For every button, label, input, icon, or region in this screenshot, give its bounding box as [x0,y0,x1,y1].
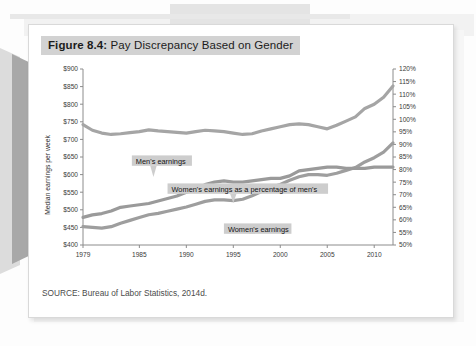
y2-axis-tick-label: 60% [399,216,412,223]
y2-axis-tick-label: 65% [399,204,412,211]
series-line-1 [83,86,393,135]
annotation-pointer [150,166,156,177]
x-axis-tick-label: 1979 [76,251,91,258]
y2-axis-tick-label: 90% [399,141,412,148]
figure-number: Figure 8.4: [48,39,107,51]
y-axis-tick-label: $600 [63,171,78,178]
y2-axis-tick-label: 50% [399,241,412,248]
x-axis-tick-label: 1995 [226,251,241,258]
x-axis-tick-label: 1990 [179,251,194,258]
y2-axis-tick-label: 80% [399,166,412,173]
y-axis-title: Median earnings per week [44,135,52,215]
y-axis-right: 50%55%60%65%70%75%80%85%90%95%100%105%11… [393,65,416,248]
y-axis-tick-label: $900 [63,65,78,72]
x-axis-tick-label: 2010 [367,251,382,258]
source-note: SOURCE: Bureau of Labor Statistics, 2014… [42,288,207,298]
y2-axis-tick-label: 120% [399,65,416,72]
background-rule-line [10,14,350,19]
line-chart: $400$450$500$550$600$650$700$750$800$850… [41,63,443,281]
y-axis-tick-label: $750 [63,118,78,125]
x-axis: 1979198519901995200020052010 [76,245,393,258]
x-axis-tick-label: 2005 [320,251,335,258]
y-axis-tick-label: $400 [63,241,78,248]
y-axis-tick-label: $850 [63,83,78,90]
series-annotation-label: Men's earnings [136,157,186,166]
y-axis-tick-label: $650 [63,153,78,160]
y2-axis-tick-label: 100% [399,116,416,123]
y2-axis-tick-label: 115% [399,78,416,85]
y2-axis-tick-label: 85% [399,153,412,160]
y-axis-tick-label: $800 [63,101,78,108]
y-axis-tick-label: $700 [63,136,78,143]
y2-axis-tick-label: 110% [399,91,416,98]
x-axis-tick-label: 2000 [273,251,288,258]
figure-title: Figure 8.4: Pay Discrepancy Based on Gen… [41,36,300,55]
figure-title-text: Pay Discrepancy Based on Gender [107,39,293,51]
y2-axis-tick-label: 95% [399,128,412,135]
figure-card: Figure 8.4: Pay Discrepancy Based on Gen… [28,24,454,318]
series-annotations-group: Men's earningsWomen's earnings as a perc… [132,155,328,233]
y2-axis-tick-label: 105% [399,103,416,110]
y2-axis-tick-label: 75% [399,179,412,186]
y-axis-tick-label: $500 [63,206,78,213]
x-axis-tick-label: 1985 [132,251,147,258]
y-axis-tick-label: $550 [63,189,78,196]
y-axis-tick-label: $450 [63,224,78,231]
y2-axis-tick-label: 70% [399,191,412,198]
y2-axis-tick-label: 55% [399,229,412,236]
series-annotation-label: Women's earnings [228,225,289,234]
series-annotation-label: Women's earnings as a percentage of men'… [172,185,318,194]
y-axis-left: $400$450$500$550$600$650$700$750$800$850… [63,65,83,248]
data-series-group [83,86,393,228]
chart-plot-region: $400$450$500$550$600$650$700$750$800$850… [41,63,443,281]
